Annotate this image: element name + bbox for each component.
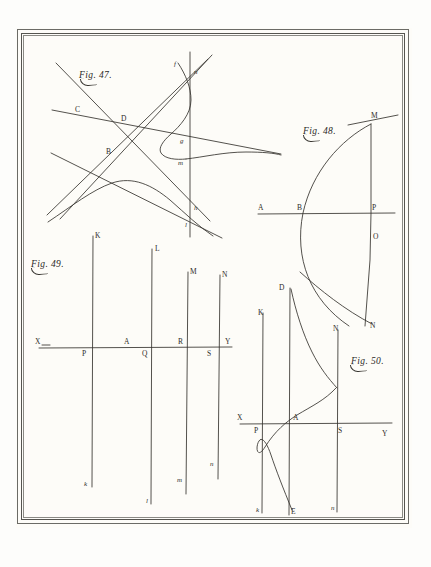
fig47-label-C: C — [75, 106, 80, 114]
fig49-label-k: k — [84, 481, 87, 488]
fig49-label-m: m — [177, 477, 182, 484]
fig49-label-L: L — [155, 245, 160, 253]
fig47-label-h: h — [194, 205, 198, 212]
fig50-label-A: A — [293, 414, 299, 422]
fig49-label-A: A — [124, 338, 130, 346]
fig47-label-B: B — [106, 148, 111, 156]
fig49-label-N: N — [222, 271, 228, 279]
fig47-label-l: l — [185, 222, 187, 229]
fig49-label-l: l — [146, 498, 148, 505]
fig49-label-S: S — [207, 350, 211, 358]
fig49-label-Y: Y — [225, 338, 231, 346]
fig50-label-P: P — [254, 427, 258, 435]
fig48-label-N: N — [370, 322, 376, 330]
fig49-label-M: M — [190, 268, 197, 276]
fig48-label-O: O — [373, 233, 379, 241]
fig50-label-N: N — [333, 325, 339, 333]
fig47-label-m: m — [178, 160, 183, 167]
fig50-label-k: k — [256, 507, 259, 514]
fig50-label-K: K — [258, 309, 264, 317]
fig49-label-X: X — [35, 338, 41, 346]
engraved-plate: Fig. 47. C D B f n g m h l Fig. 48. A B … — [0, 0, 431, 567]
fig50-label-X: X — [237, 414, 243, 422]
fig47-label-n: n — [194, 69, 198, 76]
fig49-label-P: P — [82, 350, 86, 358]
fig50-label-D: D — [279, 284, 285, 292]
fig49-label-K: K — [95, 232, 101, 240]
fig49-label-n: n — [210, 461, 214, 468]
fig47-label-D: D — [121, 115, 127, 123]
fig50-label-S: S — [338, 427, 342, 435]
fig49-label-R: R — [178, 338, 183, 346]
fig47-label-g: g — [180, 138, 184, 145]
fig50-label-Y: Y — [382, 430, 388, 438]
fig48-label-M: M — [371, 112, 378, 120]
fig48-label-A: A — [258, 204, 264, 212]
fig48-label-B: B — [297, 204, 302, 212]
fig49-label-Q: Q — [142, 350, 148, 358]
fig50-label-E: E — [291, 508, 296, 516]
fig50-label-n: n — [331, 505, 335, 512]
fig47-label-f: f — [174, 61, 176, 68]
fig48-label-P: P — [372, 204, 376, 212]
